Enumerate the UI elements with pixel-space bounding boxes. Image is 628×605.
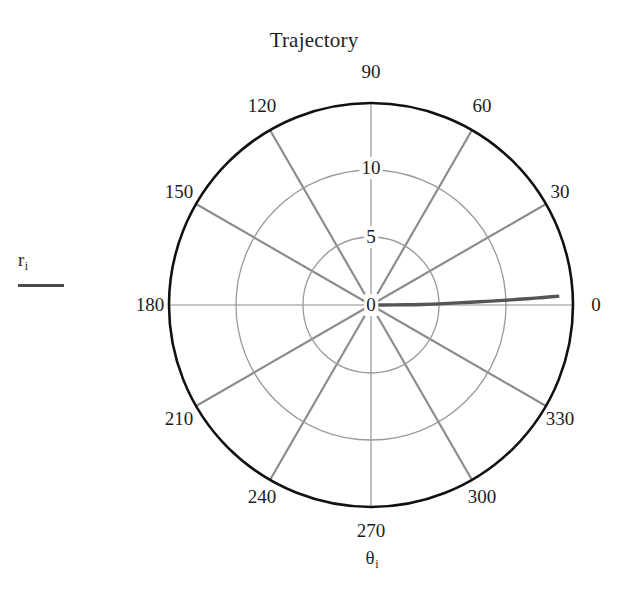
polar-spoke-60 [371, 130, 472, 305]
polar-spoke-240 [270, 305, 371, 480]
angular-tick-120: 120 [248, 95, 277, 117]
polar-spoke-210 [196, 305, 371, 406]
angular-tick-30: 30 [551, 181, 570, 203]
polar-spoke-150 [196, 204, 371, 305]
polar-spoke-330 [371, 305, 546, 406]
angular-tick-210: 210 [165, 408, 194, 430]
polar-spoke-300 [371, 305, 472, 480]
angular-tick-60: 60 [473, 95, 492, 117]
angular-tick-330: 330 [546, 408, 575, 430]
angular-tick-270: 270 [357, 520, 386, 542]
angular-tick-150: 150 [165, 181, 194, 203]
angular-tick-240: 240 [248, 486, 277, 508]
polar-spoke-120 [270, 130, 371, 305]
angular-tick-90: 90 [362, 61, 381, 83]
data-trace [371, 296, 559, 305]
polar-spoke-30 [371, 204, 546, 305]
angular-tick-180: 180 [136, 294, 165, 316]
polar-chart: Trajectory ri θi 03060901201501802102402… [0, 0, 628, 605]
polar-axes [0, 0, 628, 605]
radial-tick-5: 5 [364, 226, 378, 248]
angular-tick-300: 300 [468, 486, 497, 508]
radial-tick-10: 10 [360, 157, 383, 179]
radial-tick-0: 0 [364, 294, 378, 316]
angular-tick-0: 0 [591, 294, 601, 316]
